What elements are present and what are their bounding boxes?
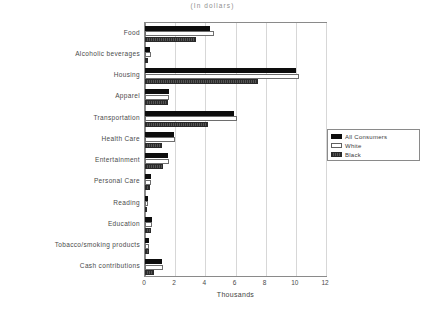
x-axis-tick-labels: 024681012 bbox=[144, 279, 327, 291]
category-label-transportation: Transportation bbox=[93, 114, 140, 121]
legend: All ConsumersWhiteBlack bbox=[327, 129, 420, 161]
bar bbox=[145, 52, 151, 57]
category-label-cash-contributions: Cash contributions bbox=[80, 262, 140, 269]
category-label-food: Food bbox=[124, 29, 140, 36]
bar-group bbox=[145, 257, 326, 278]
plot-area bbox=[144, 22, 327, 277]
bar bbox=[145, 111, 234, 116]
category-label-entertainment: Entertainment bbox=[95, 156, 140, 163]
bar bbox=[145, 164, 163, 169]
bar-group bbox=[145, 236, 326, 257]
bar bbox=[145, 37, 196, 42]
legend-swatch-white-outline bbox=[331, 143, 342, 148]
bar-group bbox=[145, 44, 326, 65]
bar bbox=[145, 137, 175, 142]
bar bbox=[145, 259, 162, 264]
bar bbox=[145, 153, 168, 158]
bar bbox=[145, 238, 149, 243]
bar bbox=[145, 222, 152, 227]
chart-subtitle: (In dollars) bbox=[0, 2, 425, 9]
legend-label: Black bbox=[345, 152, 361, 158]
legend-item[interactable]: Black bbox=[331, 150, 416, 159]
bar bbox=[145, 116, 237, 121]
legend-label: White bbox=[345, 143, 362, 149]
bar bbox=[145, 174, 151, 179]
category-label-apparel: Apparel bbox=[115, 92, 140, 99]
x-tick-8: 8 bbox=[263, 279, 267, 286]
bar bbox=[145, 31, 214, 36]
bar-group bbox=[145, 193, 326, 214]
bar bbox=[145, 89, 169, 94]
x-axis-title: Thousands bbox=[144, 291, 327, 298]
bar bbox=[145, 270, 154, 275]
legend-swatch-solid-black bbox=[331, 134, 342, 139]
bar bbox=[145, 26, 210, 31]
bar-group bbox=[145, 214, 326, 235]
bar bbox=[145, 100, 168, 105]
bar bbox=[145, 132, 174, 137]
bar bbox=[145, 122, 208, 127]
bar bbox=[145, 159, 169, 164]
bar bbox=[145, 196, 148, 201]
bar bbox=[145, 185, 150, 190]
bar bbox=[145, 244, 149, 249]
category-label-reading: Reading bbox=[113, 199, 140, 206]
bar bbox=[145, 58, 148, 63]
category-axis-labels: FoodAlcoholic beveragesHousingApparelTra… bbox=[0, 22, 140, 277]
category-label-health-care: Health Care bbox=[101, 135, 140, 142]
category-label-education: Education bbox=[108, 220, 140, 227]
bar bbox=[145, 201, 148, 206]
consumer-expenditures-chart: CONSUMER EXPENDITURES (In dollars) FoodA… bbox=[0, 0, 425, 312]
category-label-housing: Housing bbox=[114, 71, 140, 78]
legend-label: All Consumers bbox=[345, 134, 387, 140]
bar-group bbox=[145, 129, 326, 150]
legend-swatch-dark-gray-hatched bbox=[331, 152, 342, 157]
bar-group bbox=[145, 151, 326, 172]
x-tick-0: 0 bbox=[142, 279, 146, 286]
x-tick-4: 4 bbox=[203, 279, 207, 286]
bar-group bbox=[145, 108, 326, 129]
bar-group bbox=[145, 172, 326, 193]
bar bbox=[145, 68, 296, 73]
category-label-tobacco-smoking-products: Tobacco/smoking products bbox=[55, 241, 140, 248]
bar bbox=[145, 47, 150, 52]
x-tick-2: 2 bbox=[172, 279, 176, 286]
bar bbox=[145, 228, 151, 233]
category-label-personal-care: Personal Care bbox=[94, 177, 140, 184]
legend-item[interactable]: All Consumers bbox=[331, 132, 416, 141]
bar bbox=[145, 249, 149, 254]
bar bbox=[145, 265, 163, 270]
x-tick-6: 6 bbox=[233, 279, 237, 286]
bar-group bbox=[145, 23, 326, 44]
bar bbox=[145, 207, 147, 212]
bar bbox=[145, 79, 258, 84]
bar bbox=[145, 143, 162, 148]
bar-group bbox=[145, 87, 326, 108]
bar-group bbox=[145, 66, 326, 87]
x-tick-10: 10 bbox=[291, 279, 298, 286]
bar bbox=[145, 95, 169, 100]
x-tick-12: 12 bbox=[321, 279, 328, 286]
category-label-alcoholic-beverages: Alcoholic beverages bbox=[75, 50, 140, 57]
bar bbox=[145, 180, 151, 185]
legend-item[interactable]: White bbox=[331, 141, 416, 150]
bar bbox=[145, 74, 299, 79]
bar bbox=[145, 217, 152, 222]
